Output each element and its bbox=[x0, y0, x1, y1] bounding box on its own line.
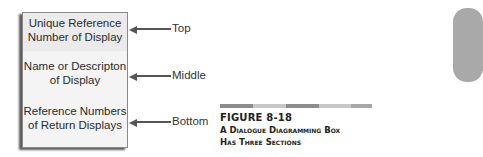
label-middle: Middle bbox=[172, 69, 206, 81]
figure-caption: FIGURE 8-18 A Dialogue Diagramming Box H… bbox=[220, 112, 340, 148]
page-edge-tab bbox=[453, 8, 483, 82]
box-section-middle: Name or Descripton of Display bbox=[23, 59, 127, 87]
section-text: Reference Numbers bbox=[23, 104, 127, 118]
section-text: Name or Descripton bbox=[23, 59, 127, 73]
section-text: of Display bbox=[23, 73, 127, 87]
box-section-top: Unique Reference Number of Display bbox=[23, 16, 127, 44]
box-section-bottom: Reference Numbers of Return Displays bbox=[23, 104, 127, 132]
figure-number: FIGURE 8-18 bbox=[220, 112, 340, 124]
figure-caption-line: Has Three Sections bbox=[220, 136, 340, 148]
label-top: Top bbox=[172, 22, 191, 34]
section-text: of Return Displays bbox=[23, 118, 127, 132]
dialogue-diagramming-box: Unique Reference Number of Display Name … bbox=[22, 12, 128, 148]
label-bottom: Bottom bbox=[172, 115, 208, 127]
figure-decorative-bar bbox=[220, 104, 372, 108]
figure-caption-line: A Dialogue Diagramming Box bbox=[220, 124, 340, 136]
section-text: Number of Display bbox=[23, 30, 127, 44]
section-text: Unique Reference bbox=[23, 16, 127, 30]
